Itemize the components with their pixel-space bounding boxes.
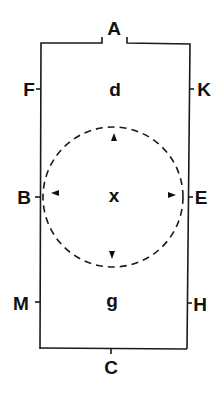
top-right-wall (127, 37, 190, 349)
label-f: F (23, 79, 35, 100)
label-h: H (193, 294, 207, 315)
arrow-right-icon (168, 192, 176, 198)
top-left-wall (40, 37, 102, 349)
diagram-canvas: A F K d B x E M g H C (0, 0, 224, 394)
arrow-left-icon (51, 190, 59, 196)
label-x: x (109, 185, 120, 206)
label-m: M (13, 293, 29, 314)
arrow-up-icon (111, 133, 117, 141)
label-g: g (106, 290, 118, 311)
bottom-wall (40, 348, 187, 349)
label-c: C (104, 357, 118, 378)
arrow-down-icon (109, 251, 115, 259)
label-e: E (195, 187, 208, 208)
label-k: K (197, 79, 211, 100)
edge-ticks (35, 89, 194, 354)
label-b: B (17, 187, 31, 208)
label-d: d (109, 79, 121, 100)
label-a: A (107, 18, 121, 39)
